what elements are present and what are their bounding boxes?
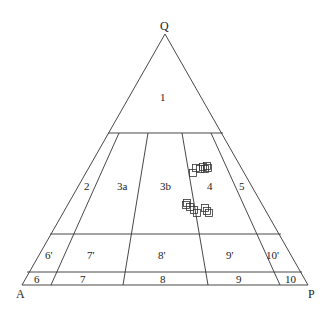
field-10p: 10' <box>266 249 279 261</box>
field-1: 1 <box>160 91 166 103</box>
sample-marker <box>204 208 211 215</box>
divider-4-5 <box>211 133 280 285</box>
field-6: 6 <box>34 273 40 285</box>
field-8: 8 <box>160 273 166 285</box>
qap-ternary-diagram: Q A P 1 2 3a 3b 4 5 6' 7' 8' 9' 10' 6 7 … <box>0 0 331 312</box>
sample-marker <box>194 210 201 217</box>
corner-p: P <box>308 287 315 301</box>
sample-marker <box>191 207 198 214</box>
divider-3b-4 <box>182 133 208 285</box>
corner-a: A <box>16 287 25 301</box>
field-3b: 3b <box>160 180 172 192</box>
field-4: 4 <box>207 180 213 192</box>
field-8p: 8' <box>158 249 166 261</box>
field-7p: 7' <box>87 249 95 261</box>
corner-q: Q <box>160 19 169 33</box>
divider-2-3a <box>51 133 119 285</box>
sample-marker <box>202 205 209 212</box>
divider-3a-3b <box>123 133 148 285</box>
field-10: 10 <box>285 273 297 285</box>
field-9: 9 <box>236 273 242 285</box>
sample-marker <box>190 170 197 177</box>
sample-marker <box>187 204 194 211</box>
field-5: 5 <box>239 180 245 192</box>
field-7: 7 <box>80 273 86 285</box>
field-3a: 3a <box>117 180 128 192</box>
field-2: 2 <box>84 180 90 192</box>
field-9p: 9' <box>226 249 234 261</box>
sample-marker <box>206 210 213 217</box>
field-6p: 6' <box>45 249 53 261</box>
triangle-outline <box>22 34 308 285</box>
